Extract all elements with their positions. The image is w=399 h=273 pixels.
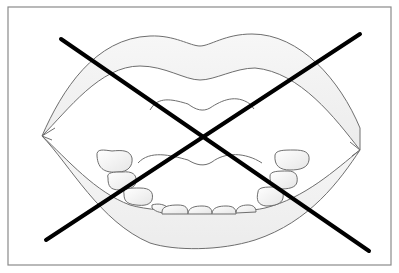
tooth-right-upper	[275, 150, 309, 170]
illustration-canvas	[0, 0, 399, 273]
tooth-left-middle	[108, 172, 136, 190]
tooth-left-lower	[124, 188, 153, 205]
tooth-front-2	[162, 205, 188, 214]
tooth-left-upper	[97, 150, 132, 172]
mouth-crossed-out-illustration	[0, 0, 399, 273]
